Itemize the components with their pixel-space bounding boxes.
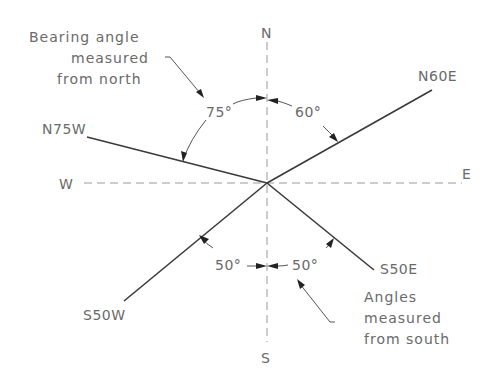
- arc-50e-lower: [278, 265, 288, 266]
- bearing-diagram: N S E W N60E N75W S50E S50W 60° 75° 50° …: [0, 0, 504, 372]
- arc-75-upper: [233, 98, 256, 104]
- north-note-line-3: from north: [57, 71, 142, 87]
- arc-75-lower: [184, 120, 206, 158]
- angle-50-east: 50°: [292, 257, 318, 273]
- bearing-line-s50e: [267, 183, 374, 270]
- label-n60e: N60E: [418, 68, 457, 84]
- arrow-50w-axis: [256, 263, 267, 269]
- label-north: N: [261, 25, 272, 41]
- bearing-line-n75w: [87, 137, 267, 183]
- arc-60-upper: [278, 101, 292, 106]
- label-south: S: [261, 350, 270, 366]
- angle-75: 75°: [206, 104, 232, 120]
- leader-south-note: [300, 284, 335, 322]
- leader-south-arrow: [297, 279, 305, 289]
- south-note-line-2: measured: [364, 310, 442, 326]
- arrow-50e-axis: [267, 263, 278, 269]
- arrow-50w-line: [199, 235, 209, 244]
- south-note-line-1: Angles: [364, 289, 417, 305]
- north-note-line-1: Bearing angle: [29, 29, 140, 45]
- bearing-line-s50w: [124, 183, 267, 301]
- leader-north-note: [165, 57, 200, 93]
- angle-60: 60°: [295, 104, 321, 120]
- south-note-line-3: from south: [364, 331, 450, 347]
- arrow-75-top: [256, 95, 267, 101]
- label-east: E: [462, 166, 471, 182]
- angle-50-west: 50°: [215, 257, 241, 273]
- label-n75w: N75W: [42, 121, 86, 137]
- label-s50e: S50E: [380, 261, 418, 277]
- arrow-60-top: [267, 98, 278, 104]
- label-s50w: S50W: [83, 307, 126, 323]
- bearing-line-n60e: [267, 90, 432, 183]
- label-west: W: [59, 176, 73, 192]
- north-note-line-2: measured: [71, 50, 149, 66]
- arrow-60-bottom: [329, 133, 338, 142]
